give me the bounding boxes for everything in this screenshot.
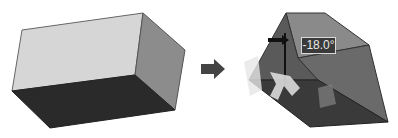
original-box bbox=[12, 13, 185, 128]
drafted-box bbox=[244, 13, 388, 127]
draft-angle-label: -18.0° bbox=[301, 37, 336, 54]
figure-canvas bbox=[0, 0, 398, 138]
right-arrow-icon bbox=[201, 59, 225, 79]
